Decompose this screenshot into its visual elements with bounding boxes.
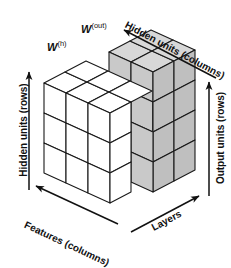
hidden-weight-symbol: W: [47, 41, 57, 53]
output-weight-superscript: (out): [91, 21, 106, 30]
hidden-weight-superscript: (h): [57, 39, 66, 48]
gray-lower-front-faces: [131, 122, 153, 192]
output-weight-label: W(out): [81, 22, 107, 35]
output-units-rows-label: Output units (rows): [216, 78, 226, 198]
hidden-units-rows-label: Hidden units (rows): [19, 70, 29, 190]
hidden-weight-label: W(h): [47, 40, 67, 53]
gray-side-faces: [153, 50, 195, 192]
output-weight-symbol: W: [81, 23, 91, 35]
white-side-faces: [110, 102, 131, 203]
